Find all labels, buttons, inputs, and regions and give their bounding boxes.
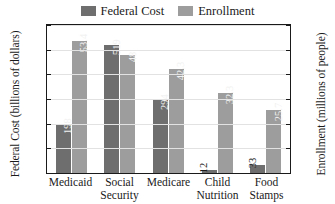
gridline xyxy=(47,124,290,125)
axis-tick xyxy=(286,173,290,174)
axis-tick xyxy=(47,148,51,149)
gridline xyxy=(47,148,290,149)
x-axis-label-medicaid: Medicaid xyxy=(48,176,92,204)
legend-label-federal-cost: Federal Cost xyxy=(101,5,165,17)
axis-tick xyxy=(286,74,290,75)
bar-federal-cost[interactable]: 519 xyxy=(104,45,119,173)
bar-value-label: 33 xyxy=(248,158,258,169)
x-axis-category-labels: MedicaidSocialSecurityMedicareChildNutri… xyxy=(46,176,291,204)
legend-swatch-enrollment xyxy=(178,6,193,16)
x-axis-label-child-nutrition: ChildNutrition xyxy=(195,176,239,204)
gridline xyxy=(47,25,290,26)
x-axis-label-food-stamps: FoodStamps xyxy=(244,176,288,204)
bar-enrollment[interactable]: 32.3 xyxy=(218,93,233,173)
legend-label-enrollment: Enrollment xyxy=(198,5,254,17)
dual-axis-bar-chart: Federal Cost Enrollment Federal Cost (bi… xyxy=(0,0,335,204)
axis-tick xyxy=(47,25,51,26)
bar-federal-cost[interactable]: 294 xyxy=(153,100,168,173)
axis-tick xyxy=(47,124,51,125)
plot-area: 19853.45194829442.31232.33325.7 00100102… xyxy=(46,24,291,174)
axis-tick xyxy=(286,124,290,125)
bar-value-label: 25.7 xyxy=(274,103,284,121)
axis-tick xyxy=(47,173,51,174)
x-axis-label-medicare: Medicare xyxy=(146,176,190,204)
bar-enrollment[interactable]: 53.4 xyxy=(72,41,87,173)
axis-tick xyxy=(47,74,51,75)
bar-value-label: 12 xyxy=(199,163,209,174)
axis-tick xyxy=(47,50,51,51)
y-axis-title-right: Enrollment (millions of people) xyxy=(315,24,327,184)
bar-enrollment[interactable]: 48 xyxy=(120,55,135,173)
axis-tick xyxy=(286,148,290,149)
gridline xyxy=(47,74,290,75)
bar-value-label: 32.3 xyxy=(225,86,235,104)
x-axis-label-social-security: SocialSecurity xyxy=(97,176,141,204)
bar-enrollment[interactable]: 25.7 xyxy=(266,110,281,173)
axis-tick xyxy=(286,50,290,51)
bar-federal-cost[interactable]: 12 xyxy=(202,170,217,173)
legend-entry-federal-cost: Federal Cost xyxy=(81,5,165,17)
axis-tick xyxy=(286,25,290,26)
legend-swatch-federal-cost xyxy=(81,6,96,16)
bar-value-label: 48 xyxy=(128,52,138,63)
axis-tick xyxy=(47,99,51,100)
bar-value-label: 42.3 xyxy=(176,62,186,80)
bar-enrollment[interactable]: 42.3 xyxy=(169,69,184,173)
y-axis-title-left: Federal Cost (billions of dollars) xyxy=(9,24,21,184)
legend-entry-enrollment: Enrollment xyxy=(178,5,254,17)
gridline xyxy=(47,50,290,51)
bar-federal-cost[interactable]: 33 xyxy=(250,165,265,173)
chart-legend: Federal Cost Enrollment xyxy=(0,2,335,20)
bar-value-label: 519 xyxy=(112,39,122,55)
gridline xyxy=(47,99,290,100)
axis-tick xyxy=(286,99,290,100)
